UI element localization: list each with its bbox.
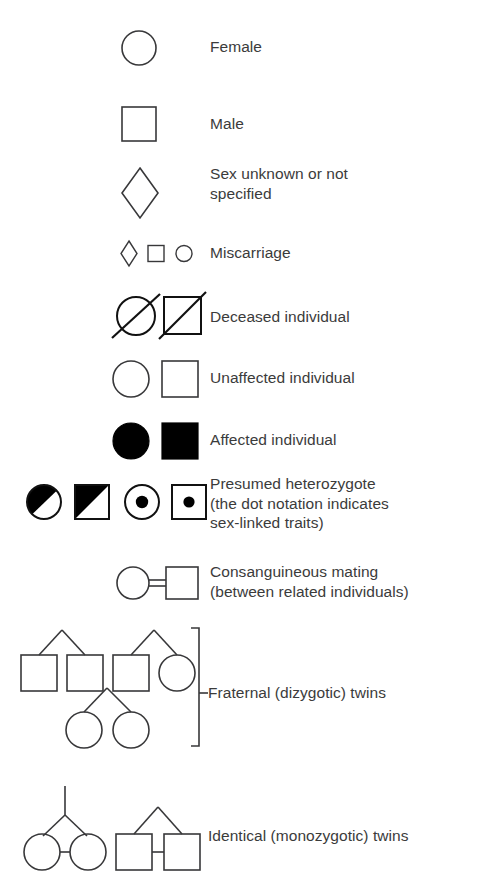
presumed-heterozygote-symbols: [22, 478, 202, 526]
legend-row-affected: Affected individual: [0, 414, 491, 476]
square-outline-icon: [67, 655, 103, 691]
legend-row-female: Female: [0, 0, 491, 92]
legend-row-fraternal-twins: Fraternal (dizygotic) twins: [0, 622, 491, 754]
deceased-symbols: [98, 288, 208, 348]
legend-label-identical-twins: Identical (monozygotic) twins: [208, 826, 491, 846]
circle-outline-icon: [113, 361, 149, 397]
twin-line-icon: [39, 630, 62, 655]
legend-row-sex-unknown: Sex unknown or not specified: [0, 164, 491, 238]
legend-label-presumed-heterozygote: Presumed heterozygote (the dot notation …: [210, 474, 490, 533]
circle-filled-icon: [113, 423, 149, 459]
square-outline-icon: [113, 655, 149, 691]
legend-label-miscarriage: Miscarriage: [210, 243, 480, 263]
pedigree-monozygotic-circles: [24, 786, 106, 870]
small-square-outline-icon: [148, 246, 164, 262]
square-outline-symbol: [118, 102, 162, 146]
legend-row-identical-twins: Identical (monozygotic) twins: [0, 768, 491, 880]
circle-dot-icon: [125, 485, 159, 519]
identical-twins-symbols: [12, 778, 212, 878]
legend-label-deceased: Deceased individual: [210, 307, 480, 327]
affected-symbols: [106, 416, 216, 468]
circle-outline-icon: [113, 712, 149, 748]
twin-line-icon: [158, 807, 182, 834]
diamond-outline-symbol: [118, 163, 168, 223]
legend-row-deceased: Deceased individual: [0, 290, 491, 352]
pedigree-legend: Female Male Sex unknown or not specified: [0, 0, 491, 880]
square-outline-icon: [162, 361, 198, 397]
unaffected-symbols: [106, 354, 216, 406]
small-circle-outline-icon: [176, 246, 192, 262]
legend-label-female: Female: [210, 37, 480, 57]
legend-row-consanguineous-mating: Consanguineous mating (between related i…: [0, 558, 491, 622]
circle-outline-icon: [66, 712, 102, 748]
slash-line-icon: [112, 294, 160, 338]
legend-row-presumed-heterozygote: Presumed heterozygote (the dot notation …: [0, 476, 491, 558]
square-outline-icon: [166, 567, 198, 599]
small-diamond-outline-icon: [121, 241, 137, 266]
square-filled-icon: [162, 423, 198, 459]
twin-line-icon: [43, 815, 65, 836]
twin-line-icon: [65, 815, 87, 836]
circle-outline-icon: [70, 834, 106, 870]
twin-line-icon: [62, 630, 85, 655]
twin-line-icon: [134, 807, 158, 834]
square-outline-icon: [21, 655, 57, 691]
legend-label-unaffected: Unaffected individual: [210, 368, 480, 388]
pedigree-monozygotic-squares: [116, 807, 200, 870]
legend-row-miscarriage: Miscarriage: [0, 238, 491, 290]
legend-label-male: Male: [210, 114, 480, 134]
circle-outline-icon: [117, 567, 149, 599]
miscarriage-symbols: [118, 238, 202, 272]
legend-label-consanguineous-mating: Consanguineous mating (between related i…: [210, 562, 491, 601]
pedigree-dizygotic-group: [12, 622, 212, 752]
square-outline-icon: [164, 834, 200, 870]
legend-row-male: Male: [0, 92, 491, 164]
slash-line-icon: [159, 292, 206, 339]
twin-line-icon: [154, 630, 177, 655]
legend-label-fraternal-twins: Fraternal (dizygotic) twins: [208, 683, 491, 703]
consanguineous-mating-symbol: [112, 560, 212, 610]
square-dot-icon: [172, 485, 206, 519]
circle-outline-symbol: [118, 26, 162, 70]
circle-outline-icon: [24, 834, 60, 870]
square-half-filled-icon: [75, 485, 109, 519]
twin-group-bracket: [191, 628, 208, 746]
twin-line-icon: [131, 630, 154, 655]
square-outline-icon: [116, 834, 152, 870]
circle-half-filled-icon: [27, 485, 61, 519]
legend-label-affected: Affected individual: [210, 430, 480, 450]
legend-label-sex-unknown: Sex unknown or not specified: [210, 164, 480, 203]
legend-row-unaffected: Unaffected individual: [0, 352, 491, 414]
circle-outline-icon: [159, 655, 195, 691]
